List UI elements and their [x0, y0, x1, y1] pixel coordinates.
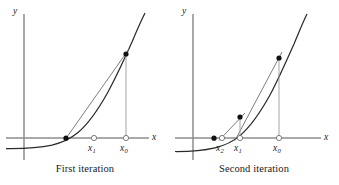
point-x2-open	[219, 135, 224, 140]
y-axis-label: y	[182, 7, 186, 17]
point-x0-open	[123, 135, 128, 140]
panel-first-iteration: y x x1 x0 First iteration	[0, 0, 170, 185]
caption-second-iteration: Second iteration	[169, 163, 339, 174]
tick-label-x0: x0	[120, 144, 128, 154]
plot-second-iteration	[169, 0, 339, 162]
y-axis-label: y	[13, 7, 17, 17]
caption-first-iteration: First iteration	[0, 163, 170, 174]
tick-label-x0: x0	[273, 144, 281, 154]
point-fx1-filled	[237, 114, 242, 119]
tick-label-x1: x1	[88, 144, 96, 154]
point-x0-open	[276, 135, 281, 140]
tick-label-x2-sub: 2	[220, 147, 223, 154]
function-curve	[175, 14, 307, 152]
plot-first-iteration	[0, 0, 170, 162]
point-fx0-filled	[276, 55, 281, 60]
secant-line-previous	[235, 52, 282, 141]
point-root-filled	[211, 136, 216, 141]
tick-label-x0-sub: 0	[124, 147, 127, 154]
tick-label-x1-sub: 1	[238, 147, 241, 154]
x-axis-label: x	[152, 133, 156, 143]
x-axis-label: x	[324, 133, 328, 143]
tick-label-x2: x2	[216, 144, 224, 154]
panel-second-iteration: y x x2 x1 x0 Second iteration	[169, 0, 339, 185]
secant-line	[65, 49, 130, 141]
tick-label-x0-sub: 0	[277, 147, 280, 154]
function-curve	[6, 13, 145, 149]
point-root-filled	[63, 136, 68, 141]
secant-method-figure: y x x1 x0 First iteration	[0, 0, 339, 185]
point-x1-open	[237, 135, 242, 140]
tick-label-x1: x1	[234, 144, 242, 154]
point-fx0-filled	[123, 51, 128, 56]
point-x1-open	[91, 135, 96, 140]
tick-label-x1-sub: 1	[92, 147, 95, 154]
